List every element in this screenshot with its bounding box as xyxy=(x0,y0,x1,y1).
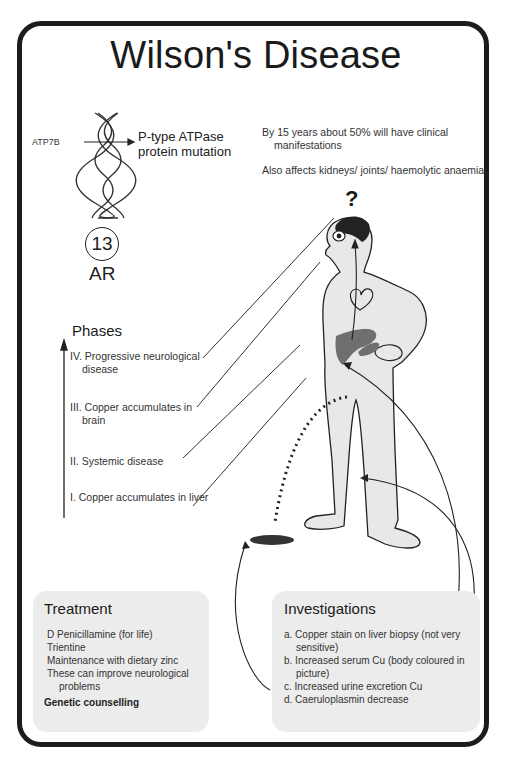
treatment-item: Maintenance with dietary zinc xyxy=(47,654,207,667)
protein-line-2: protein mutation xyxy=(138,144,231,159)
inheritance-label: AR xyxy=(89,263,115,285)
protein-label: P-type ATPase protein mutation xyxy=(138,129,231,159)
phase-item-1: I. Copper accumulates in liver xyxy=(70,491,214,504)
dna-helix-icon xyxy=(76,113,136,218)
hand-on-hip xyxy=(375,345,402,361)
treatment-panel: Treatment D Penicillamine (for life) Tri… xyxy=(33,591,209,732)
treatment-item: Trientine xyxy=(47,641,207,654)
fact-clinical-onset: By 15 years about 50% will have clinical… xyxy=(262,126,494,152)
phase-progression-arrow xyxy=(61,340,67,518)
investigation-item: c. Increased urine excretion Cu xyxy=(284,680,476,693)
investigations-title: Investigations xyxy=(284,600,376,617)
eye-icon xyxy=(333,231,345,241)
investigations-list: a. Copper stain on liver biopsy (not ver… xyxy=(284,628,476,706)
treatment-item: D Penicillamine (for life) xyxy=(47,628,207,641)
human-figure xyxy=(305,218,427,548)
chromosome-number-badge: 13 xyxy=(85,227,119,261)
investigation-item: b. Increased serum Cu (body coloured in … xyxy=(284,654,476,680)
fact-other-organs: Also affects kidneys/ joints/ haemolytic… xyxy=(262,164,494,177)
question-mark: ? xyxy=(345,186,358,212)
treatment-item: These can improve neurological problems xyxy=(47,667,207,693)
phase-item-4: IV. Progressive neurological disease xyxy=(70,350,214,376)
investigation-item: a. Copper stain on liver biopsy (not ver… xyxy=(284,628,476,654)
phases-title: Phases xyxy=(72,322,122,339)
urine-puddle-icon xyxy=(250,535,294,545)
phase-item-2: II. Systemic disease xyxy=(70,455,214,468)
protein-line-1: P-type ATPase xyxy=(138,129,231,144)
investigations-panel: Investigations a. Copper stain on liver … xyxy=(272,591,480,732)
genetic-counselling-note: Genetic counselling xyxy=(44,697,139,708)
phase-item-3: III. Copper accumulates in brain xyxy=(70,401,214,427)
investigation-item: d. Caeruloplasmin decrease xyxy=(284,693,476,706)
treatment-title: Treatment xyxy=(44,600,112,617)
treatment-list: D Penicillamine (for life) Trientine Mai… xyxy=(47,628,207,693)
gene-label: ATP7B xyxy=(32,136,60,149)
